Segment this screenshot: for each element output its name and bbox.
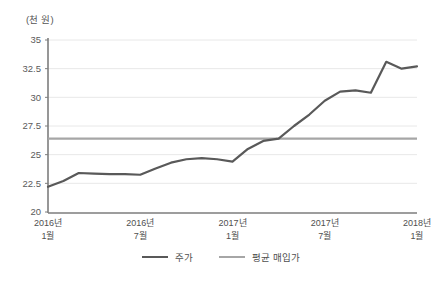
y-axis-tick-label: 32.5 bbox=[23, 63, 42, 74]
legend-line-icon-stock-price bbox=[142, 256, 168, 258]
x-axis-tick-label-year: 2018년 bbox=[403, 218, 431, 228]
stock-price-line-chart: (천 원) 2022.52527.53032.535 2016년1월2016년7… bbox=[0, 0, 442, 281]
legend-item-stock-price: 주가 bbox=[142, 250, 193, 264]
x-axis-tick-label-year: 2016년 bbox=[34, 218, 62, 228]
x-axis-tick-label-month: 1월 bbox=[41, 230, 54, 241]
chart-canvas: 2022.52527.53032.535 2016년1월2016년7월2017년… bbox=[0, 0, 442, 281]
x-axis-tick-label-month: 7월 bbox=[318, 230, 331, 241]
y-axis-tick-labels: 2022.52527.53032.535 bbox=[23, 34, 42, 217]
y-axis-tick-label: 20 bbox=[30, 206, 41, 217]
series-line-stock-price bbox=[48, 62, 417, 187]
x-axis-tick-label-month: 1월 bbox=[410, 230, 423, 241]
y-axis-tick-label: 35 bbox=[30, 34, 41, 45]
y-axis-tick-label: 27.5 bbox=[23, 120, 42, 131]
legend-label-average-purchase-price: 평균 매입가 bbox=[252, 250, 300, 264]
x-axis-tick-labels: 2016년1월2016년7월2017년1월2017년7월2018년1월 bbox=[34, 218, 431, 241]
legend-label-stock-price: 주가 bbox=[175, 250, 193, 264]
legend-item-average-purchase-price: 평균 매입가 bbox=[219, 250, 300, 264]
x-axis-tick-label-month: 7월 bbox=[134, 230, 147, 241]
legend-line-icon-average-purchase-price bbox=[219, 256, 245, 258]
y-axis-tick-label: 25 bbox=[30, 149, 41, 160]
y-axis-tick-label: 22.5 bbox=[23, 178, 42, 189]
x-axis-tick-label-year: 2016년 bbox=[126, 218, 154, 228]
x-axis-tick-label-month: 1월 bbox=[226, 230, 239, 241]
gridlines-group bbox=[45, 40, 417, 212]
chart-legend: 주가 평균 매입가 bbox=[0, 250, 442, 264]
x-axis-tick-label-year: 2017년 bbox=[311, 218, 339, 228]
x-axis-tick-label-year: 2017년 bbox=[218, 218, 246, 228]
plot-area-container: 2022.52527.53032.535 2016년1월2016년7월2017년… bbox=[0, 0, 442, 281]
y-axis-tick-label: 30 bbox=[30, 92, 41, 103]
